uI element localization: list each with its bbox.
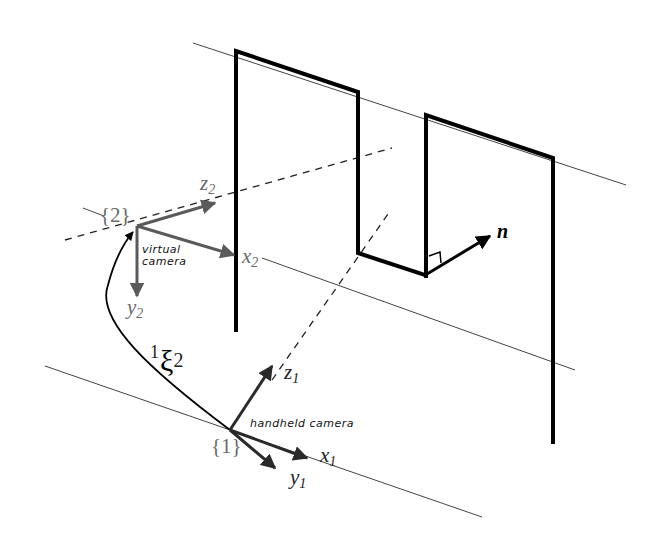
virtual-camera-caption-line2: camera [142,255,187,268]
right-angle-icon [429,252,441,263]
x1-label: x1 [319,443,336,469]
pose-label: 1ξ2 [150,342,183,377]
z2-label: z2 [199,171,215,197]
z2-axis-arrow-icon [137,203,215,226]
normal-label: n [497,220,508,242]
x2-label: x2 [241,244,258,270]
frame-1: {1} z1 x1 y1 handheld camera [211,360,354,491]
frame-1-label: {1} [211,434,242,458]
pose-diagram: n {2} z2 x2 y2 virtual camera 1ξ2 {1} z1… [0,0,657,543]
y2-label: y2 [125,295,143,321]
right-panel-outline [426,115,553,442]
z1-label: z1 [283,360,299,386]
y1-label: y1 [288,465,306,491]
left-panel [236,51,425,330]
frame-2-label: {2} [100,203,131,227]
surface-normal: n [427,220,508,274]
guide-lines [45,43,626,517]
left-panel-outline [236,51,425,330]
diagram-canvas: n {2} z2 x2 y2 virtual camera 1ξ2 {1} z1… [0,0,657,543]
right-panel [426,115,553,442]
handheld-camera-caption: handheld camera [250,417,354,430]
normal-arrow-icon [427,236,490,274]
top-guide-line [193,43,626,185]
